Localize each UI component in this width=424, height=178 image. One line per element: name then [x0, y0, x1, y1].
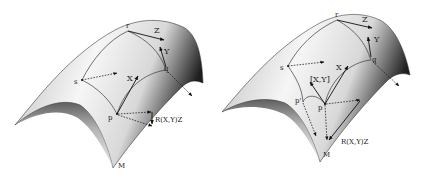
point-p-dot — [324, 103, 326, 105]
vector-label-y: Y — [373, 35, 380, 44]
point-s-dot — [287, 65, 289, 67]
vector-label-x: X — [336, 63, 342, 72]
vector-label-y: Y — [163, 47, 170, 56]
vector-label-bracket: [X,Y] — [310, 75, 330, 84]
point-label-p: p — [108, 114, 113, 122]
figure-right: r Z Y q s X [X,Y] p' p R(X,Y)Z M — [222, 11, 410, 162]
surface-label-m: M — [118, 162, 125, 170]
point-label-p: p — [318, 104, 323, 112]
point-label-s: s — [74, 78, 78, 86]
point-label-q: q — [372, 56, 377, 64]
figure-left: r Z Y q s X p R(X,Y)Z M — [15, 20, 203, 170]
vector-label-z: Z — [362, 15, 368, 24]
saddle-surface — [15, 20, 203, 168]
point-label-q: q — [164, 65, 169, 73]
point-label-s: s — [280, 64, 284, 72]
vector-label-x: X — [127, 74, 133, 83]
curvature-label: R(X,Y)Z — [155, 116, 183, 124]
vector-label-z: Z — [154, 26, 160, 35]
point-s-dot — [81, 79, 83, 81]
diagram-canvas: r Z Y q s X p R(X,Y)Z M r Z Y q — [0, 0, 424, 178]
point-label-pprime: p' — [295, 97, 301, 105]
point-p-dot — [116, 113, 118, 115]
saddle-surface — [222, 14, 410, 162]
curvature-label: R(X,Y)Z — [341, 138, 369, 146]
surface-label-m: M — [323, 151, 330, 159]
